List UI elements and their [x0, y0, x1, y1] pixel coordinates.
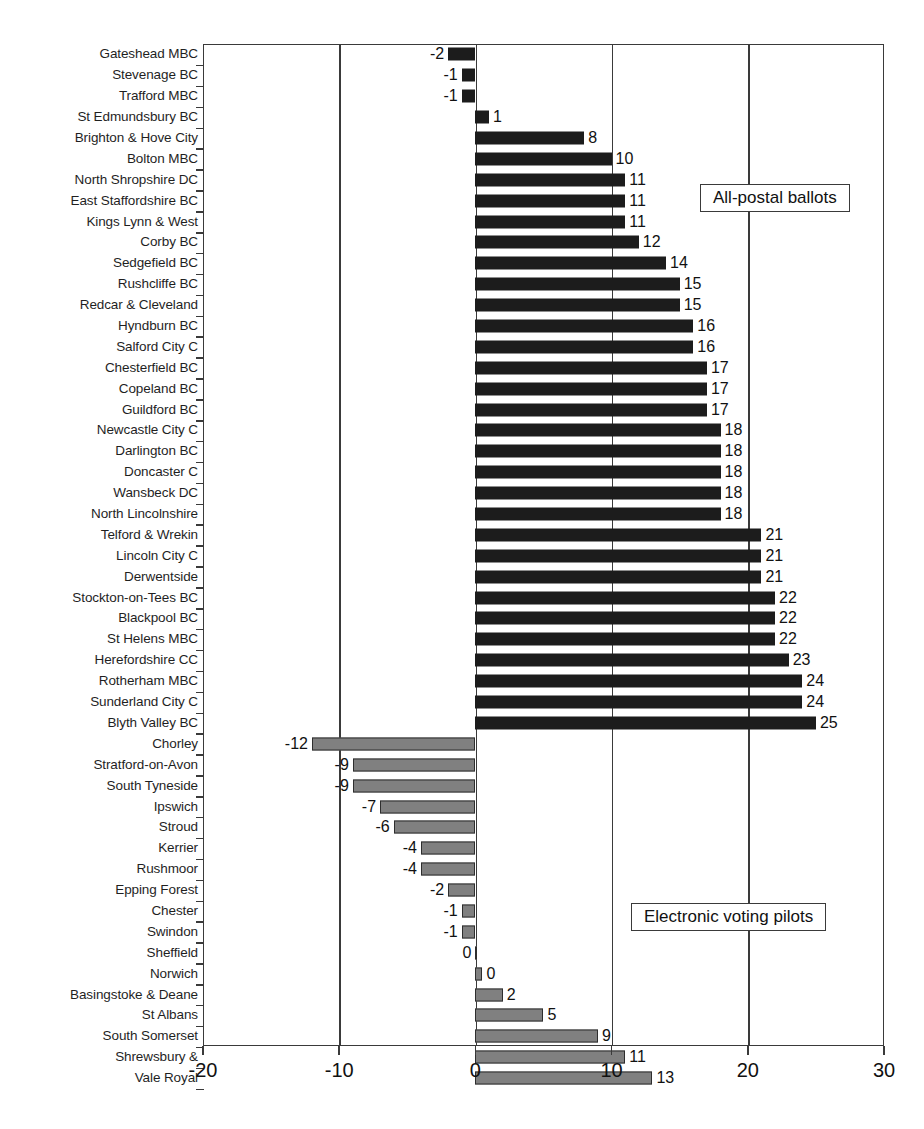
- bar-row: Darlington BC18: [0, 441, 924, 462]
- bar-row: Chorley-12: [0, 733, 924, 754]
- bar: [475, 716, 816, 729]
- bar-value-label: 21: [765, 569, 783, 585]
- bar-value-label: 9: [602, 1028, 611, 1044]
- bar-value-label: -9: [335, 778, 349, 794]
- bar-value-label: 17: [711, 381, 729, 397]
- bar-row: Salford City C16: [0, 336, 924, 357]
- bar: [475, 299, 679, 312]
- bar-value-label: 18: [725, 422, 743, 438]
- category-label: North Shropshire DC: [75, 173, 198, 187]
- bar-row: Sunderland City C24: [0, 692, 924, 713]
- category-label: Derwentside: [124, 570, 198, 584]
- bar: [353, 758, 476, 771]
- bar-row: Hyndburn BC16: [0, 316, 924, 337]
- bar: [475, 466, 720, 479]
- bar-row: Epping Forest-2: [0, 880, 924, 901]
- category-label: Herefordshire CC: [95, 654, 198, 668]
- category-label: Stevenage BC: [112, 69, 198, 83]
- category-label: Chesterfield BC: [105, 361, 198, 375]
- bar-value-label: -12: [285, 736, 308, 752]
- legend-all-postal-ballots: All-postal ballots: [700, 184, 850, 212]
- category-label: Ipswich: [154, 800, 198, 814]
- bar: [475, 654, 788, 667]
- bar-value-label: 0: [486, 966, 495, 982]
- bar-value-label: 24: [806, 673, 824, 689]
- bar: [353, 779, 476, 792]
- bar-value-label: 15: [684, 297, 702, 313]
- category-label: Norwich: [150, 967, 198, 981]
- bar: [421, 863, 475, 876]
- category-label: Lincoln City C: [116, 549, 198, 563]
- bar-value-label: 8: [588, 130, 597, 146]
- category-label: Copeland BC: [119, 382, 198, 396]
- category-label: Rotherham MBC: [99, 674, 198, 688]
- category-label: Sheffield: [147, 946, 198, 960]
- bar-value-label: 5: [548, 1007, 557, 1023]
- category-label: Kings Lynn & West: [86, 215, 198, 229]
- category-label: Kerrier: [158, 842, 198, 856]
- bar-row: Doncaster C18: [0, 462, 924, 483]
- bar-value-label: 2: [507, 987, 516, 1003]
- bar-row: Rotherham MBC24: [0, 671, 924, 692]
- x-axis-label: 0: [470, 1060, 481, 1080]
- category-label: Swindon: [147, 925, 198, 939]
- bar: [462, 925, 476, 938]
- bar: [380, 800, 475, 813]
- category-label: Newcastle City C: [97, 424, 198, 438]
- bar-row: St Edmundsbury BC1: [0, 107, 924, 128]
- bar-value-label: 10: [616, 151, 634, 167]
- bar: [475, 340, 693, 353]
- x-axis-label: -10: [325, 1060, 354, 1080]
- bar-row: Basingstoke & Deane2: [0, 984, 924, 1005]
- bar: [475, 988, 502, 1001]
- bar-row: Chesterfield BC17: [0, 357, 924, 378]
- bar: [448, 48, 475, 61]
- bar-row: Rushcliffe BC15: [0, 274, 924, 295]
- category-label: Stockton-on-Tees BC: [72, 591, 198, 605]
- x-axis-tick-20: [747, 1046, 749, 1055]
- bar: [475, 173, 625, 186]
- bar-value-label: -2: [430, 882, 444, 898]
- bar-row: North Lincolnshire18: [0, 504, 924, 525]
- category-label: North Lincolnshire: [91, 507, 198, 521]
- category-label: Rushcliffe BC: [118, 277, 198, 291]
- category-label: Gateshead MBC: [100, 48, 199, 62]
- x-axis-tick-0: [475, 1046, 477, 1055]
- bar-value-label: 15: [684, 276, 702, 292]
- category-label: Trafford MBC: [119, 89, 198, 103]
- bar-row: Corby BC12: [0, 232, 924, 253]
- bar: [475, 591, 775, 604]
- bar: [475, 528, 761, 541]
- bar-value-label: -7: [362, 799, 376, 815]
- category-label: Blyth Valley BC: [107, 716, 198, 730]
- bar-row: Kings Lynn & West11: [0, 211, 924, 232]
- bar-row: Redcar & Cleveland15: [0, 295, 924, 316]
- x-axis-label: -20: [189, 1060, 218, 1080]
- category-label: Chester: [151, 904, 198, 918]
- bar-row: Sedgefield BC14: [0, 253, 924, 274]
- category-label: Hyndburn BC: [118, 319, 198, 333]
- bar-row: Derwentside21: [0, 566, 924, 587]
- bar: [475, 111, 489, 124]
- bar-row: Stratford-on-Avon-9: [0, 754, 924, 775]
- bar-row: Blyth Valley BC25: [0, 713, 924, 734]
- bar: [421, 842, 475, 855]
- bar-value-label: -9: [335, 757, 349, 773]
- category-label: Sunderland City C: [90, 695, 198, 709]
- bar: [475, 278, 679, 291]
- category-label: South Somerset: [103, 1030, 198, 1044]
- bar-value-label: 22: [779, 590, 797, 606]
- bar: [475, 403, 707, 416]
- bar: [475, 132, 584, 145]
- category-label: Salford City C: [116, 340, 198, 354]
- category-label: Telford & Wrekin: [101, 528, 198, 542]
- x-axis: -20-100102030: [0, 1046, 924, 1106]
- bar: [475, 445, 720, 458]
- x-axis-tick--20: [202, 1046, 204, 1055]
- bar: [475, 215, 625, 228]
- bar-value-label: 11: [629, 193, 646, 209]
- bar-row: Rushmoor-4: [0, 859, 924, 880]
- x-axis-tick--10: [338, 1046, 340, 1055]
- category-label: Epping Forest: [115, 883, 198, 897]
- bar: [475, 675, 802, 688]
